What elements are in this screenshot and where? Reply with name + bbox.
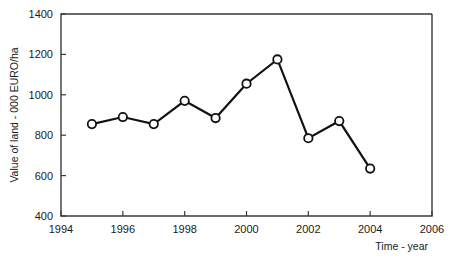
- x-tick-label: 1998: [172, 223, 196, 235]
- data-point-marker: [366, 164, 374, 172]
- data-point-marker: [242, 79, 250, 87]
- y-axis-tick-labels: 400600800100012001400: [29, 8, 53, 222]
- x-axis-tick-labels: 1994199619982000200220042006: [49, 223, 444, 235]
- y-tick-label: 800: [35, 129, 53, 141]
- data-markers: [88, 55, 375, 172]
- data-point-marker: [335, 117, 343, 125]
- data-point-marker: [273, 55, 281, 63]
- x-axis-title: Time - year: [375, 240, 428, 252]
- data-line-value-of-land: [92, 59, 370, 168]
- y-axis-ticks: [61, 14, 66, 216]
- x-tick-label: 1994: [49, 223, 73, 235]
- y-tick-label: 600: [35, 170, 53, 182]
- axis-frame: [61, 14, 432, 216]
- x-tick-label: 1996: [111, 223, 135, 235]
- y-tick-label: 1000: [29, 89, 53, 101]
- y-axis-title: Value of land - 000 EURO/ha: [8, 47, 20, 182]
- y-tick-label: 1200: [29, 48, 53, 60]
- data-point-marker: [119, 113, 127, 121]
- data-point-marker: [211, 114, 219, 122]
- y-tick-label: 1400: [29, 8, 53, 20]
- x-tick-label: 2006: [420, 223, 444, 235]
- data-point-marker: [150, 120, 158, 128]
- series-group: [88, 55, 375, 172]
- x-axis-ticks: [61, 211, 432, 216]
- x-tick-label: 2000: [234, 223, 258, 235]
- x-tick-label: 2004: [358, 223, 382, 235]
- line-chart: 400600800100012001400 199419961998200020…: [0, 0, 452, 263]
- y-tick-label: 400: [35, 210, 53, 222]
- x-tick-label: 2002: [296, 223, 320, 235]
- data-point-marker: [180, 97, 188, 105]
- plot-frame: [61, 14, 432, 216]
- data-point-marker: [304, 134, 312, 142]
- chart-container: 400600800100012001400 199419961998200020…: [0, 0, 452, 263]
- data-point-marker: [88, 120, 96, 128]
